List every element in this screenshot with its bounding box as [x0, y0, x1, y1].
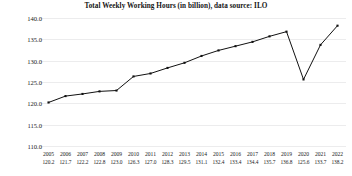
x-tick-label-value: 131.1 — [193, 158, 210, 166]
x-tick-label-year: 2018 — [261, 150, 278, 158]
chart-title: Total Weekly Working Hours (in billion),… — [0, 2, 352, 10]
x-tick-label-value: 127.0 — [142, 158, 159, 166]
y-tick-label: 140.0 — [8, 15, 42, 22]
x-tick-label-value: 126.3 — [125, 158, 142, 166]
x-tick-label-value: 134.4 — [244, 158, 261, 166]
data-series-working-hours — [40, 18, 346, 146]
x-tick-label-year: 2012 — [159, 150, 176, 158]
x-tick-label-value: 132.4 — [210, 158, 227, 166]
x-tick-label-year: 2020 — [295, 150, 312, 158]
x-tick-label-value: 138.2 — [329, 158, 346, 166]
data-point-marker — [81, 93, 83, 95]
chart-container: Total Weekly Working Hours (in billion),… — [0, 0, 352, 176]
x-tick-label-value: 125.6 — [295, 158, 312, 166]
plot-area: 140.0135.0130.0125.0120.0115.0110.0 — [40, 18, 346, 146]
x-tick-label-year: 2011 — [142, 150, 159, 158]
data-point-marker — [132, 75, 134, 77]
y-tick-label: 130.0 — [8, 57, 42, 64]
x-axis-year-row: 2005200620072008200920102011201220132014… — [40, 150, 346, 158]
x-tick-label-value: 120.2 — [40, 158, 57, 166]
data-point-marker — [217, 49, 219, 51]
x-tick-label-value: 123.0 — [108, 158, 125, 166]
data-point-marker — [285, 31, 287, 33]
x-tick-label-year: 2009 — [108, 150, 125, 158]
y-tick-label: 135.0 — [8, 36, 42, 43]
series-line — [49, 26, 338, 103]
data-point-marker — [183, 62, 185, 64]
x-tick-label-year: 2016 — [227, 150, 244, 158]
y-tick-label: 115.0 — [8, 121, 42, 128]
data-point-marker — [47, 101, 49, 103]
x-tick-label-year: 2017 — [244, 150, 261, 158]
data-point-marker — [98, 90, 100, 92]
x-tick-label-value: 133.4 — [227, 158, 244, 166]
x-tick-label-value: 121.7 — [57, 158, 74, 166]
x-tick-label-value: 136.8 — [278, 158, 295, 166]
data-point-marker — [336, 25, 338, 27]
x-tick-label-year: 2006 — [57, 150, 74, 158]
x-axis-table: 2005200620072008200920102011201220132014… — [40, 150, 346, 166]
data-point-marker — [149, 72, 151, 74]
data-point-marker — [268, 35, 270, 37]
x-tick-label-year: 2008 — [91, 150, 108, 158]
x-tick-label-value: 133.7 — [312, 158, 329, 166]
data-point-marker — [64, 95, 66, 97]
series-markers — [47, 25, 338, 104]
y-tick-label: 120.0 — [8, 100, 42, 107]
x-tick-label-year: 2005 — [40, 150, 57, 158]
data-point-marker — [302, 78, 304, 80]
x-tick-label-value: 122.2 — [74, 158, 91, 166]
data-point-marker — [115, 89, 117, 91]
x-tick-label-year: 2015 — [210, 150, 227, 158]
x-tick-label-year: 2022 — [329, 150, 346, 158]
data-point-marker — [200, 55, 202, 57]
x-tick-label-year: 2019 — [278, 150, 295, 158]
y-tick-label: 110.0 — [8, 143, 42, 150]
gridline-110-0 — [40, 146, 346, 147]
x-tick-label-value: 129.5 — [176, 158, 193, 166]
y-tick-label: 125.0 — [8, 79, 42, 86]
data-point-marker — [166, 67, 168, 69]
x-tick-label-value: 135.7 — [261, 158, 278, 166]
x-tick-label-year: 2021 — [312, 150, 329, 158]
x-tick-label-year: 2013 — [176, 150, 193, 158]
data-point-marker — [251, 41, 253, 43]
x-tick-label-value: 128.3 — [159, 158, 176, 166]
x-axis-value-row: 120.2121.7122.2122.8123.0126.3127.0128.3… — [40, 158, 346, 166]
x-tick-label-year: 2010 — [125, 150, 142, 158]
data-point-marker — [319, 44, 321, 46]
data-point-marker — [234, 45, 236, 47]
x-tick-label-value: 122.8 — [91, 158, 108, 166]
x-tick-label-year: 2007 — [74, 150, 91, 158]
x-tick-label-year: 2014 — [193, 150, 210, 158]
